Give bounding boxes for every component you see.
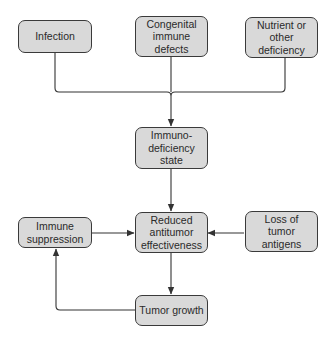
immunodeficiency-tumor-flowchart: Infection Congenital immune defects Nutr…: [0, 0, 333, 338]
node-tumor-growth: Tumor growth: [135, 295, 208, 326]
node-immunodeficiency-state: Immuno- deficiency state: [135, 127, 208, 169]
node-immune-suppression: Immune suppression: [18, 217, 92, 248]
node-loss-of-tumor-antigens: Loss of tumor antigens: [245, 211, 318, 252]
node-nutrient-deficiency: Nutrient or other deficiency: [245, 17, 318, 58]
node-congenital-immune-defects: Congenital immune defects: [135, 16, 208, 57]
node-reduced-antitumor-effectiveness: Reduced antitumor effectiveness: [135, 212, 208, 253]
node-infection: Infection: [18, 20, 92, 53]
edge-tumor-suppression: [56, 249, 135, 310]
edge-infection: [55, 53, 167, 92]
edge-nutrient: [175, 58, 285, 92]
